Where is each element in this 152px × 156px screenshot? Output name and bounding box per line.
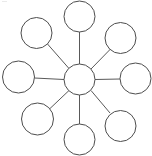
spoke-top-right (91, 49, 111, 69)
node-top[interactable] (64, 1, 95, 32)
spoke-bottom-right (91, 91, 110, 114)
spoke-left (35, 78, 65, 80)
scan-artifact-speck (2, 1, 7, 2)
center-node[interactable] (64, 64, 95, 95)
radial-diagram (0, 0, 152, 156)
spoke-right (95, 79, 120, 80)
hub-node-group (64, 64, 95, 95)
spoke-top-left (48, 44, 70, 69)
node-bottom[interactable] (64, 124, 95, 155)
node-right[interactable] (120, 63, 151, 94)
node-top-right[interactable] (105, 23, 136, 54)
spoke-bottom-left (50, 91, 69, 109)
node-top-left[interactable] (21, 18, 52, 49)
node-bottom-right[interactable] (105, 111, 136, 142)
node-left[interactable] (3, 61, 35, 93)
node-bottom-left[interactable] (22, 103, 54, 135)
diagram-canvas (0, 0, 152, 156)
